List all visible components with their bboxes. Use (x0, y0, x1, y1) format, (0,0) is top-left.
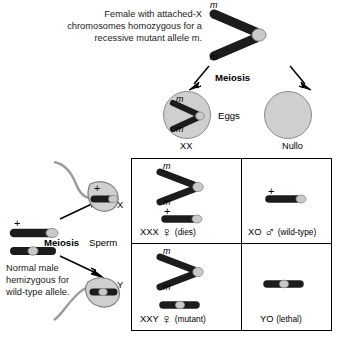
female-symbol-icon: ♀ (161, 224, 172, 240)
female-symbol-icon: ♀ (161, 311, 172, 327)
female-parent-caption: Female with attached-X chromosomes homoz… (44, 8, 202, 45)
xxy-allele-m-bottom: m (163, 282, 171, 292)
punnett-cell-xxy: m m XXY ♀ (mutant) (132, 244, 241, 331)
meiosis-label-male: Meiosis (44, 237, 79, 248)
sperm-x-label: X (117, 199, 123, 210)
xxy-allele-m-top: m (163, 246, 171, 256)
punnett-cell-xxy-label: XXY ♀ (mutant) (140, 313, 206, 324)
eggs-label: Eggs (218, 110, 240, 121)
punnett-cell-xxx: m m + XXX ♀ (dies) (132, 159, 241, 243)
xxx-note: (dies) (175, 227, 196, 237)
punnett-cell-yo-label: YO (lethal) (260, 313, 302, 324)
allele-label-m-top: m (210, 0, 218, 10)
egg-xx-label: XX (180, 141, 192, 151)
meiosis-arrows-female (185, 64, 325, 94)
sperm-label: Sperm (89, 237, 117, 248)
egg-allele-m-bottom: m (176, 124, 184, 134)
punnett-square-grid: m m + XXX ♀ (dies) + XO ♂ (wil (131, 158, 332, 331)
xxy-genotype: XXY (140, 313, 159, 324)
xo-allele-plus: + (268, 187, 274, 195)
meiosis-label-female: Meiosis (215, 72, 250, 83)
attached-x-inheritance-diagram: Female with attached-X chromosomes homoz… (0, 0, 339, 343)
egg-allele-m-top: m (176, 94, 184, 104)
punnett-cell-xo-label: XO ♂ (wild-type) (248, 226, 316, 237)
xxx-genotype: XXX (140, 226, 159, 237)
sperm-y-label: Y (117, 279, 123, 290)
yo-note: (lethal) (276, 314, 302, 324)
allele-label-m-bottom: m (210, 52, 218, 62)
punnett-cell-yo: YO (lethal) (242, 244, 332, 331)
xxy-note: (mutant) (175, 314, 206, 324)
punnett-cell-xxx-label: XXX ♀ (dies) (140, 226, 196, 237)
yo-genotype: YO (260, 313, 274, 324)
sperm-x-allele-plus: + (94, 184, 100, 192)
y-chromosome-yo (262, 276, 316, 292)
xo-genotype: XO (248, 226, 262, 237)
male-symbol-icon: ♂ (264, 224, 275, 240)
punnett-cell-xo: + XO ♂ (wild-type) (242, 159, 332, 243)
xxx-allele-m-top: m (163, 161, 171, 171)
male-parent-caption: Normal male hemizygous for wild-type all… (6, 262, 82, 299)
egg-cell-nullo (264, 91, 312, 139)
xxx-allele-plus: + (164, 207, 170, 215)
egg-nullo-label: Nullo (282, 141, 303, 151)
attached-x-chromosome-in-egg (168, 97, 214, 135)
sperm-cell-x (52, 158, 124, 216)
male-allele-plus: + (14, 219, 20, 227)
xo-note: (wild-type) (278, 227, 317, 237)
